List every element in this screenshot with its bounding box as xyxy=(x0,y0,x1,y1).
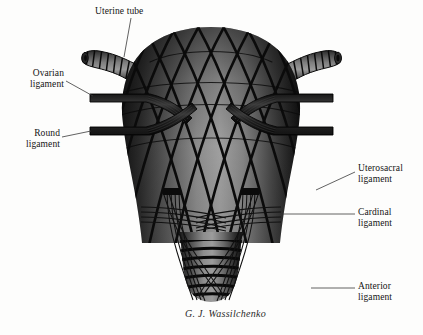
label-round-ligament-line2: ligament xyxy=(0,139,60,150)
label-ovarian-ligament-line2: ligament xyxy=(0,79,64,90)
leader-round-ligament xyxy=(62,131,91,137)
label-cardinal-ligament-line2: ligament xyxy=(358,218,392,229)
label-round-ligament-line1: Round xyxy=(0,128,60,139)
ligament-anchor-right xyxy=(241,188,259,195)
label-anterior-ligament: Anterior ligament xyxy=(358,281,392,303)
label-anterior-ligament-line2: ligament xyxy=(358,292,392,303)
label-uterosacral-ligament-line2: ligament xyxy=(358,174,403,185)
label-uterosacral-ligament: Uterosacral ligament xyxy=(358,163,403,185)
label-round-ligament: Round ligament xyxy=(0,128,60,150)
figure-canvas: Uterine tube Ovarian ligament Round liga… xyxy=(0,0,423,335)
label-anterior-ligament-line1: Anterior xyxy=(358,281,392,292)
label-cardinal-ligament-line1: Cardinal xyxy=(358,207,392,218)
label-uterine-tube-line1: Uterine tube xyxy=(95,6,143,17)
ligament-anchor-left xyxy=(163,188,181,195)
label-ovarian-ligament: Ovarian ligament xyxy=(0,68,64,90)
label-ovarian-ligament-line1: Ovarian xyxy=(0,68,64,79)
label-cardinal-ligament: Cardinal ligament xyxy=(358,207,392,229)
leader-uterine-tube xyxy=(124,18,131,57)
leader-uterosacral-ligament xyxy=(316,172,355,190)
label-uterosacral-ligament-line1: Uterosacral xyxy=(358,163,403,174)
artist-signature: G. J. Wassilchenko xyxy=(185,308,266,319)
cervix xyxy=(174,232,248,302)
leader-ovarian-ligament xyxy=(66,81,93,96)
label-uterine-tube: Uterine tube xyxy=(95,6,143,17)
